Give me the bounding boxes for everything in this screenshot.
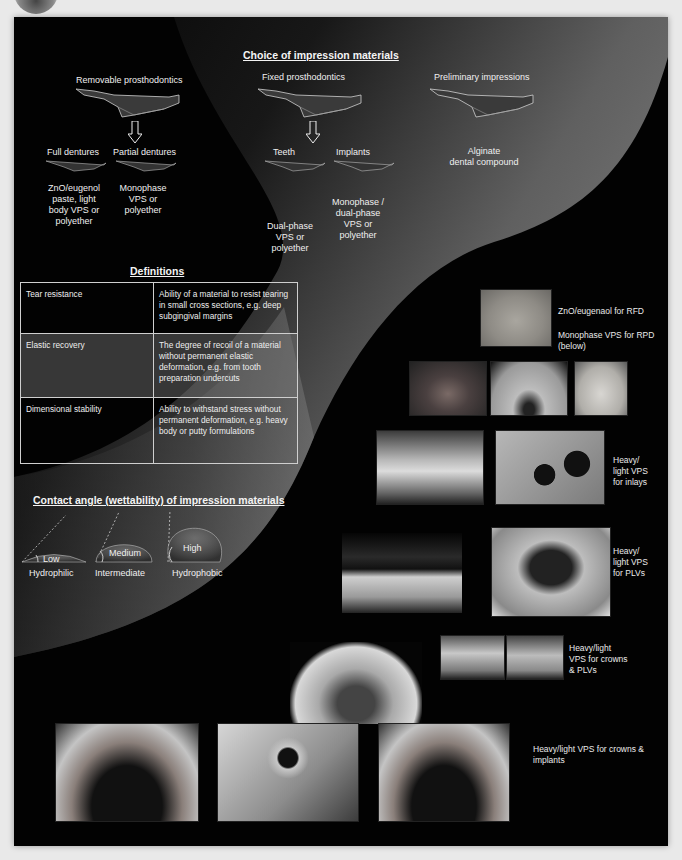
small-tray-implants	[332, 159, 396, 173]
photo-inlay-preps	[376, 430, 484, 505]
caption-rfd: ZnO/eugenaol for RFD	[558, 306, 644, 317]
category-fixed: Fixed prosthodontics	[262, 72, 345, 83]
material-line: VPS or	[112, 194, 174, 205]
caption-line: VPS for crowns	[569, 654, 628, 665]
angle-high-label: High	[183, 543, 202, 554]
material-line: polyether	[38, 216, 110, 227]
impression-tray-fixed	[256, 85, 366, 121]
material-line: VPS or	[260, 232, 320, 243]
implants-materials: Monophase / dual-phase VPS or polyether	[325, 197, 391, 241]
sub-teeth: Teeth	[273, 147, 295, 158]
sub-implants: Implants	[336, 147, 370, 158]
photo-crown-teeth-b	[506, 635, 564, 680]
photo-implant-mouth-b	[378, 723, 510, 822]
small-tray-full-dentures	[44, 159, 108, 173]
material-line: polyether	[325, 230, 391, 241]
table-row: Dimensional stability Ability to withsta…	[21, 398, 298, 464]
caption-line: & PLVs	[569, 665, 628, 676]
choice-title: Choice of impression materials	[243, 49, 399, 61]
material-line: Monophase /	[325, 197, 391, 208]
intermediate-label: Intermediate	[95, 568, 145, 579]
term-cell: Elastic recovery	[21, 334, 154, 398]
caption-line: light VPS	[613, 466, 648, 477]
photo-rfd-impression	[480, 289, 552, 347]
teeth-materials: Dual-phase VPS or polyether	[260, 221, 320, 254]
material-line: paste, light	[38, 194, 110, 205]
definitions-title: Definitions	[130, 265, 184, 277]
term-cell: Tear resistance	[21, 283, 154, 334]
corner-badge	[14, 0, 58, 14]
partial-dentures-materials: Monophase VPS or polyether	[112, 183, 174, 216]
angle-low-label: Low	[43, 554, 60, 565]
category-preliminary: Preliminary impressions	[434, 72, 530, 83]
caption-line: (below)	[558, 341, 654, 352]
infographic-panel: Choice of impression materials Removable…	[14, 17, 668, 846]
table-row: Tear resistance Ability of a material to…	[21, 283, 298, 334]
table-row: Elastic recovery The degree of recoil of…	[21, 334, 298, 398]
caption-line: Heavy/light VPS for crowns &	[533, 744, 644, 755]
material-line: polyether	[260, 243, 320, 254]
photo-plv-impression	[491, 527, 611, 617]
material-line: VPS or	[325, 219, 391, 230]
material-line: Monophase	[112, 183, 174, 194]
photo-crown-impression	[290, 642, 422, 724]
caption-line: Heavy/	[613, 546, 648, 557]
sub-full-dentures: Full dentures	[47, 147, 99, 158]
caption-line: for inlays	[613, 477, 648, 488]
preliminary-materials: Alginate dental compound	[434, 146, 534, 168]
photo-crown-teeth-a	[440, 635, 505, 680]
down-arrow-icon	[306, 121, 320, 143]
sub-partial-dentures: Partial dentures	[113, 147, 176, 158]
material-line: polyether	[112, 205, 174, 216]
caption-line: for PLVs	[613, 568, 648, 579]
caption-line: implants	[533, 755, 644, 766]
hydrophilic-label: Hydrophilic	[29, 568, 74, 579]
caption-line: Heavy/	[613, 455, 648, 466]
impression-tray-removable	[74, 85, 184, 121]
material-line: Alginate	[434, 146, 534, 157]
small-tray-teeth	[263, 159, 327, 173]
caption-plvs: Heavy/ light VPS for PLVs	[613, 546, 648, 579]
definition-cell: Ability to withstand stress without perm…	[154, 398, 298, 464]
definitions-table: Tear resistance Ability of a material to…	[20, 282, 298, 464]
full-dentures-materials: ZnO/eugenol paste, light body VPS or pol…	[38, 183, 110, 227]
definition-cell: The degree of recoil of a material witho…	[154, 334, 298, 398]
caption-line: Heavy/light	[569, 643, 628, 654]
angle-medium-label: Medium	[109, 548, 141, 559]
contact-angle-title: Contact angle (wettability) of impressio…	[33, 494, 284, 506]
small-tray-partial-dentures	[114, 159, 178, 173]
caption-rpd: Monophase VPS for RPD (below)	[558, 330, 654, 352]
caption-line: Monophase VPS for RPD	[558, 330, 654, 341]
material-line: dental compound	[434, 157, 534, 168]
photo-inlay-impression	[495, 430, 605, 505]
caption-line: light VPS	[613, 557, 648, 568]
material-line: dual-phase	[325, 208, 391, 219]
term-cell: Dimensional stability	[21, 398, 154, 464]
impression-tray-preliminary	[428, 85, 538, 121]
down-arrow-icon	[128, 121, 142, 143]
photo-implant-mouth-a	[55, 723, 199, 822]
definition-cell: Ability of a material to resist tearing …	[154, 283, 298, 334]
caption-crowns-implants: Heavy/light VPS for crowns & implants	[533, 744, 644, 766]
photo-implant-impression	[217, 723, 359, 822]
photo-rpd-mouth	[409, 361, 487, 416]
drop-high	[168, 510, 222, 562]
photo-plv-preps	[342, 533, 462, 613]
material-line: ZnO/eugenol	[38, 183, 110, 194]
caption-inlays: Heavy/ light VPS for inlays	[613, 455, 648, 488]
photo-rpd-impression	[490, 361, 568, 416]
hydrophobic-label: Hydrophobic	[172, 568, 223, 579]
photo-rpd-cast	[574, 361, 628, 416]
material-line: Dual-phase	[260, 221, 320, 232]
caption-crowns-plvs: Heavy/light VPS for crowns & PLVs	[569, 643, 628, 676]
material-line: body VPS or	[38, 205, 110, 216]
